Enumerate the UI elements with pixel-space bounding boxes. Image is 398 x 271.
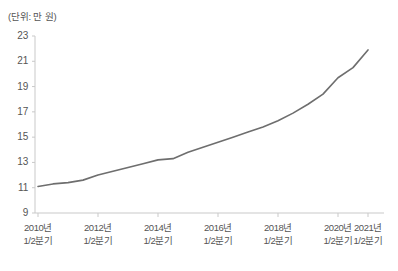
x-tick-label-year: 2012년 xyxy=(68,221,128,234)
x-tick-label-year: 2018년 xyxy=(248,221,308,234)
y-tick-label: 23 xyxy=(6,30,28,41)
data-series-line xyxy=(38,50,368,187)
x-tick-label: 2012년1/2분기 xyxy=(68,221,128,247)
y-tick-label: 9 xyxy=(6,207,28,218)
y-tick-label: 19 xyxy=(6,81,28,92)
x-tick-label: 2018년1/2분기 xyxy=(248,221,308,247)
x-tick-label-quarter: 1/2분기 xyxy=(128,234,188,247)
x-tick-label-quarter: 1/2분기 xyxy=(68,234,128,247)
x-tick-label-year: 2010년 xyxy=(8,221,68,234)
x-tick-label-quarter: 1/2분기 xyxy=(248,234,308,247)
x-tick-label-quarter: 1/2분기 xyxy=(188,234,248,247)
y-tick-label: 15 xyxy=(6,131,28,142)
x-tick-label: 2010년1/2분기 xyxy=(8,221,68,247)
x-tick-label: 2021년1/2분기 xyxy=(338,221,398,247)
chart-container: (단위: 만 원) 911131517192123 2010년1/2분기2012… xyxy=(0,0,398,271)
x-tick-label-quarter: 1/2분기 xyxy=(8,234,68,247)
y-tick-label: 21 xyxy=(6,55,28,66)
y-tick-label: 13 xyxy=(6,156,28,167)
y-tick-label: 11 xyxy=(6,182,28,193)
x-tick-marks xyxy=(38,213,368,217)
x-tick-label-year: 2016년 xyxy=(188,221,248,234)
x-tick-label: 2016년1/2분기 xyxy=(188,221,248,247)
x-tick-label-year: 2021년 xyxy=(338,221,398,234)
x-tick-label: 2014년1/2분기 xyxy=(128,221,188,247)
x-tick-label-year: 2014년 xyxy=(128,221,188,234)
x-tick-label-quarter: 1/2분기 xyxy=(338,234,398,247)
y-tick-label: 17 xyxy=(6,106,28,117)
